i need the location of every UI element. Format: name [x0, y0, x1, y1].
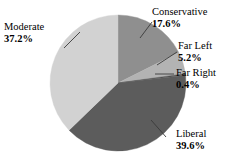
pie-label-moderate-percent: 37.2%: [4, 33, 44, 45]
pie-label-liberal: Liberal 39.6%: [176, 128, 206, 151]
pie-label-moderate-name: Moderate: [4, 21, 44, 33]
pie-label-liberal-percent: 39.6%: [176, 140, 206, 152]
pie-label-far-left-percent: 5.2%: [178, 52, 212, 64]
pie-label-liberal-name: Liberal: [176, 128, 206, 140]
pie-label-far-right-name: Far Right: [176, 67, 216, 79]
pie-label-far-right: Far Right 0.4%: [176, 67, 216, 90]
pie-label-conservative-name: Conservative: [152, 6, 207, 18]
pie-label-conservative: Conservative 17.6%: [152, 6, 207, 29]
pie-label-far-right-percent: 0.4%: [176, 79, 216, 91]
pie-label-moderate: Moderate 37.2%: [4, 21, 44, 44]
pie-chart: Conservative 17.6% Far Left 5.2% Far Rig…: [0, 0, 244, 167]
pie-label-far-left-name: Far Left: [178, 40, 212, 52]
pie-label-far-left: Far Left 5.2%: [178, 40, 212, 63]
pie-label-conservative-percent: 17.6%: [152, 18, 207, 30]
